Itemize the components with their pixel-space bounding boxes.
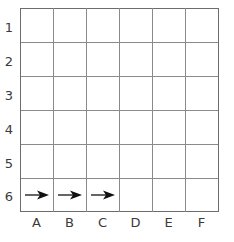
column-label-c: C <box>86 216 119 229</box>
grid-cell-a6[interactable] <box>20 178 53 211</box>
grid-line-vertical-5 <box>185 8 186 212</box>
arrow-right-icon <box>90 189 116 201</box>
column-label-b: B <box>53 216 86 229</box>
row-label-5: 5 <box>0 157 18 170</box>
row-label-3: 3 <box>0 89 18 102</box>
grid-cell-b6[interactable] <box>53 178 86 211</box>
arrow-right-icon <box>24 189 50 201</box>
row-label-6: 6 <box>0 190 18 203</box>
row-label-2: 2 <box>0 55 18 68</box>
grid-line-vertical-right <box>218 8 219 212</box>
column-label-e: E <box>152 216 185 229</box>
row-label-1: 1 <box>0 21 18 34</box>
grid-cell-c6[interactable] <box>86 178 119 211</box>
arrow-right-icon <box>57 189 83 201</box>
grid-worksheet: 1 2 3 4 5 6 A B C D E F <box>0 0 234 242</box>
column-label-a: A <box>20 216 53 229</box>
grid-line-vertical-4 <box>152 8 153 212</box>
column-label-f: F <box>185 216 218 229</box>
grid-line-vertical-3 <box>119 8 120 212</box>
column-label-d: D <box>119 216 152 229</box>
grid-area <box>20 8 219 212</box>
row-label-4: 4 <box>0 123 18 136</box>
